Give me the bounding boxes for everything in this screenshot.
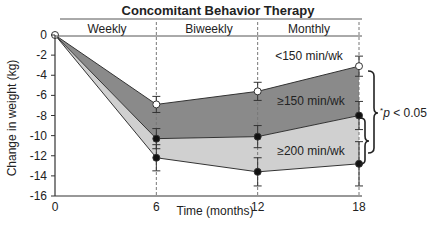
phase-label-monthly: Monthly — [288, 22, 330, 36]
bracket-upper — [368, 71, 378, 153]
x-tick-label: 6 — [153, 200, 160, 214]
bracket-lower — [360, 118, 369, 164]
phase-label-weekly: Weekly — [87, 22, 126, 36]
x-axis-label: Time (months) — [177, 204, 254, 218]
y-axis-ticks: 0-2-4-6-8-10-12-14-16 — [30, 28, 55, 203]
y-tick-label: -14 — [30, 169, 48, 183]
y-tick-label: -8 — [36, 109, 47, 123]
x-tick-label: 18 — [352, 200, 366, 214]
series-label-high: ≥200 min/wk — [277, 144, 345, 158]
y-tick-label: -12 — [30, 149, 48, 163]
open-circle-marker — [153, 101, 160, 108]
series-label-mid: ≥150 min/wk — [277, 94, 345, 108]
y-tick-label: -4 — [36, 68, 47, 82]
filled-circle-marker — [254, 133, 261, 140]
chart-title: Concomitant Behavior Therapy — [122, 3, 316, 18]
weight-change-chart: 0-2-4-6-8-10-12-14-16 061218 Concomitant… — [0, 0, 440, 230]
y-tick-label: -10 — [30, 129, 48, 143]
y-axis-label: Change in weight (kg) — [5, 60, 19, 177]
filled-circle-marker — [254, 168, 261, 175]
filled-circle-marker — [153, 154, 160, 161]
phase-label-biweekly: Biweekly — [185, 22, 232, 36]
open-circle-marker — [254, 88, 261, 95]
series-label-low: <150 min/wk — [275, 49, 344, 63]
y-tick-label: -6 — [36, 88, 47, 102]
y-tick-label: -2 — [36, 48, 47, 62]
filled-circle-marker — [153, 135, 160, 142]
y-tick-label: 0 — [40, 28, 47, 42]
y-tick-label: -16 — [30, 189, 48, 203]
open-circle-marker — [356, 63, 363, 70]
x-tick-label: 0 — [52, 200, 59, 214]
pvalue-annotation: *p < 0.05 — [380, 106, 427, 120]
